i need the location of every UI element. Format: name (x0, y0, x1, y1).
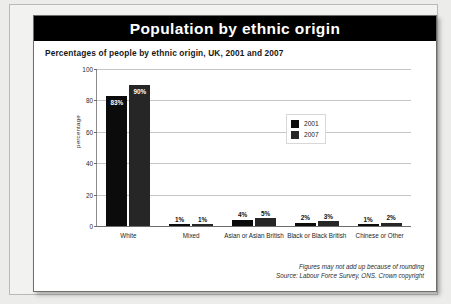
x-axis-category-label: Mixed (183, 232, 200, 239)
y-axis-tick-label: 0 (89, 223, 93, 230)
legend-label: 2007 (304, 131, 319, 138)
bar-group: 1%1%Mixed (169, 69, 213, 226)
footnote-line-rounding: Figures may not add up because of roundi… (276, 263, 424, 272)
bar-value-label: 1% (198, 216, 207, 223)
bar-2001[interactable]: 1% (169, 224, 190, 226)
bar-value-label: 4% (238, 211, 247, 218)
legend-label: 2001 (304, 120, 319, 127)
y-axis-tick (94, 132, 97, 133)
chart-card: Population by ethnic origin Percentages … (33, 15, 437, 292)
legend-swatch-icon (291, 120, 299, 128)
footnote: Figures may not add up because of roundi… (276, 263, 424, 280)
bar-value-label: 2% (386, 214, 395, 221)
y-axis-label: percentage (74, 115, 81, 148)
footnote-line-source: Source: Labour Force Survey, ONS. Crown … (276, 272, 424, 281)
chart-area: percentage 02040608010083%90%White1%1%Mi… (34, 16, 436, 291)
legend-swatch-icon (291, 131, 299, 139)
bar-2007[interactable]: 3% (318, 221, 339, 226)
bar-value-label: 3% (324, 213, 333, 220)
bar-group: 2%3%Black or Black British (295, 69, 339, 226)
bar-2007[interactable]: 90% (129, 85, 150, 226)
bar-2001[interactable]: 4% (232, 220, 253, 226)
x-axis-category-label: Asian or Asian British (224, 232, 284, 239)
bar-2001[interactable]: 83% (106, 96, 127, 226)
y-axis-tick-label: 20 (86, 191, 93, 198)
y-axis-tick-label: 80 (86, 97, 93, 104)
bar-2007[interactable]: 1% (192, 224, 213, 226)
bar-value-label: 1% (175, 216, 184, 223)
bar-value-label: 90% (133, 88, 146, 95)
bar-value-label: 2% (301, 214, 310, 221)
bar-2007[interactable]: 5% (255, 218, 276, 226)
y-axis-tick (94, 69, 97, 70)
y-axis-tick (94, 163, 97, 164)
y-axis-tick (94, 100, 97, 101)
y-axis-tick-label: 60 (86, 128, 93, 135)
y-axis-tick-label: 100 (82, 66, 93, 73)
bar-value-label: 83% (110, 99, 123, 106)
bar-2007[interactable]: 2% (381, 223, 402, 226)
bar-2001[interactable]: 2% (295, 223, 316, 226)
bar-group: 4%5%Asian or Asian British (232, 69, 276, 226)
bar-value-label: 1% (363, 216, 372, 223)
legend-item-2007[interactable]: 2007 (291, 129, 319, 140)
bar-group: 1%2%Chinese or Other (358, 69, 402, 226)
page-frame: Population by ethnic origin Percentages … (9, 4, 438, 295)
bar-group: 83%90%White (106, 69, 150, 226)
plot-area: 02040608010083%90%White1%1%Mixed4%5%Asia… (96, 69, 411, 227)
chart-legend: 20012007 (286, 114, 326, 144)
y-axis-tick (94, 226, 97, 227)
bar-2001[interactable]: 1% (358, 224, 379, 226)
y-axis-tick-label: 40 (86, 160, 93, 167)
x-axis-category-label: Chinese or Other (356, 232, 404, 239)
legend-item-2001[interactable]: 2001 (291, 118, 319, 129)
y-axis-tick (94, 195, 97, 196)
x-axis-category-label: Black or Black British (287, 232, 346, 239)
bar-value-label: 5% (261, 210, 270, 217)
x-axis-category-label: White (120, 232, 136, 239)
